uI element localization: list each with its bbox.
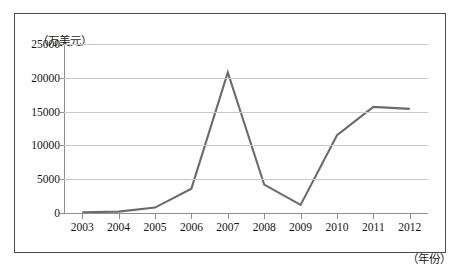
y-tick-label-5000: 5000 — [37, 173, 60, 185]
gridline-y-10000 — [64, 145, 428, 146]
x-tick-2004 — [119, 214, 120, 219]
x-tick-label-2012: 2012 — [398, 221, 421, 233]
x-tick-label-2006: 2006 — [180, 221, 203, 233]
x-tick-label-2011: 2011 — [362, 221, 385, 233]
gridline-y-5000 — [64, 179, 428, 180]
x-tick-label-2009: 2009 — [289, 221, 312, 233]
x-tick-2011 — [373, 214, 374, 219]
x-tick-2009 — [301, 214, 302, 219]
x-tick-label-2004: 2004 — [107, 221, 130, 233]
gridline-y-15000 — [64, 112, 428, 113]
x-tick-2008 — [264, 214, 265, 219]
line-series-svg — [64, 44, 428, 213]
x-tick-2007 — [228, 214, 229, 219]
chart-figure: （万美元） （年份） 0500010000150002000025000 200… — [0, 0, 459, 268]
x-tick-label-2007: 2007 — [216, 221, 239, 233]
y-tick-25000 — [59, 44, 64, 45]
y-tick-5000 — [59, 179, 64, 180]
y-tick-label-10000: 10000 — [31, 139, 60, 151]
y-tick-label-25000: 25000 — [31, 38, 60, 50]
gridline-y-25000 — [64, 44, 428, 45]
plot-area — [64, 44, 428, 213]
x-tick-label-2008: 2008 — [253, 221, 276, 233]
x-tick-2003 — [82, 214, 83, 219]
y-axis-tick-labels: 0500010000150002000025000 — [14, 44, 60, 213]
y-tick-15000 — [59, 112, 64, 113]
y-tick-10000 — [59, 145, 64, 146]
x-tick-2005 — [155, 214, 156, 219]
x-tick-label-2005: 2005 — [144, 221, 167, 233]
x-axis-tick-labels: 2003200420052006200720082009201020112012 — [64, 221, 429, 239]
y-tick-20000 — [59, 78, 64, 79]
data-line-series — [82, 72, 410, 212]
x-tick-label-2010: 2010 — [326, 221, 349, 233]
x-tick-2012 — [410, 214, 411, 219]
y-tick-label-15000: 15000 — [31, 106, 60, 118]
x-axis-ticks — [64, 214, 429, 220]
x-tick-2010 — [337, 214, 338, 219]
x-tick-2006 — [191, 214, 192, 219]
x-axis-unit-label: （年份） — [407, 250, 451, 266]
x-tick-label-2003: 2003 — [71, 221, 94, 233]
gridline-y-20000 — [64, 78, 428, 79]
y-tick-label-20000: 20000 — [31, 72, 60, 84]
